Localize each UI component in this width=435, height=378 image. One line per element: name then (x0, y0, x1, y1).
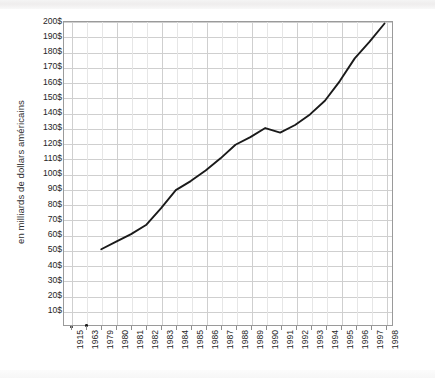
x-axis-tick-mark (131, 326, 132, 330)
x-axis-tick-label: 1989 (255, 330, 266, 374)
x-axis-tick-label: 1986 (210, 330, 221, 374)
y-axis-tick-label: 100$ (28, 169, 62, 178)
x-axis-tick-label: 1982 (150, 330, 161, 374)
y-axis-tick-label: 130$ (28, 123, 62, 132)
y-axis-tick-label: 10$ (28, 306, 62, 315)
y-axis-tick-label: 160$ (28, 78, 62, 87)
x-axis-tick-label: 1984 (180, 330, 191, 374)
y-axis-tick-label: 150$ (28, 93, 62, 102)
x-axis-tick-label: 1995 (345, 330, 356, 374)
x-axis-tick-mark (266, 326, 267, 330)
x-axis-tick-mark (311, 326, 312, 330)
y-axis-tick-label: 140$ (28, 108, 62, 117)
x-axis-tick-mark (296, 326, 297, 330)
y-axis-tick-label: 170$ (28, 62, 62, 71)
x-axis-tick-label: 1996 (360, 330, 371, 374)
x-axis-tick-label: 1990 (270, 330, 281, 374)
x-axis-tick-label-group: 1915196319791980198119821983198419851986… (63, 330, 393, 374)
y-axis-tick-label: 20$ (28, 291, 62, 300)
x-axis-tick-mark (161, 326, 162, 330)
y-axis-tick-label: 50$ (28, 245, 62, 254)
x-axis-tick-mark (206, 326, 207, 330)
x-axis-tick-label: 1997 (375, 330, 386, 374)
y-axis-tick-label: 70$ (28, 215, 62, 224)
x-axis-tick-label: 1994 (330, 330, 341, 374)
x-axis-tick-mark (281, 326, 282, 330)
x-axis-tick-mark (326, 326, 327, 330)
x-axis-tick-mark (176, 326, 177, 330)
x-axis-tick-mark (86, 326, 87, 330)
x-axis-tick-label: 1985 (195, 330, 206, 374)
x-axis-tick-label: 1992 (300, 330, 311, 374)
x-axis-tick-mark (356, 326, 357, 330)
plot-area (63, 21, 393, 326)
x-axis-tick-mark (371, 326, 372, 330)
data-line-svg (64, 22, 392, 325)
x-axis-tick-label: 1915 (75, 330, 86, 374)
y-axis-tick-label: 120$ (28, 139, 62, 148)
x-axis-tick-mark (221, 326, 222, 330)
x-axis-tick-mark (236, 326, 237, 330)
x-axis-tick-label: 1963 (90, 330, 101, 374)
x-axis-tick-mark (251, 326, 252, 330)
y-axis-tick-label: 110$ (28, 154, 62, 163)
line-chart-figure: en milliards de dollars américains 200$1… (0, 0, 435, 378)
x-axis-tick-mark (191, 326, 192, 330)
y-axis-tick-label: 60$ (28, 230, 62, 239)
x-axis-tick-label: 1993 (315, 330, 326, 374)
x-axis-tick-label: 1988 (240, 330, 251, 374)
x-axis-tick-label: 1991 (285, 330, 296, 374)
data-series-line (101, 24, 384, 250)
y-axis-tick-label-group: 200$190$180$170$160$150$140$130$120$110$… (28, 16, 62, 326)
y-axis-tick-label: 80$ (28, 200, 62, 209)
y-axis-tick-label: 180$ (28, 47, 62, 56)
y-axis-tick-label: 90$ (28, 184, 62, 193)
x-axis-tick-label: 1980 (120, 330, 131, 374)
x-axis-tick-label: 1983 (165, 330, 176, 374)
x-axis-tick-mark (341, 326, 342, 330)
x-axis-tick-mark (116, 326, 117, 330)
x-axis-tick-mark (71, 326, 72, 330)
y-axis-title: en milliards de dollars américains (14, 96, 28, 248)
x-axis-tick-label: 1987 (225, 330, 236, 374)
y-axis-tick-label: 200$ (28, 17, 62, 26)
x-axis-tick-label: 1998 (390, 330, 401, 374)
y-axis-tick-label: 30$ (28, 276, 62, 285)
x-axis-tick-mark (101, 326, 102, 330)
x-axis-tick-mark (386, 326, 387, 330)
x-axis-tick-mark (146, 326, 147, 330)
y-axis-tick-label: 190$ (28, 32, 62, 41)
x-axis-tick-label: 1979 (105, 330, 116, 374)
y-axis-tick-label: 40$ (28, 261, 62, 270)
x-axis-tick-label: 1981 (135, 330, 146, 374)
